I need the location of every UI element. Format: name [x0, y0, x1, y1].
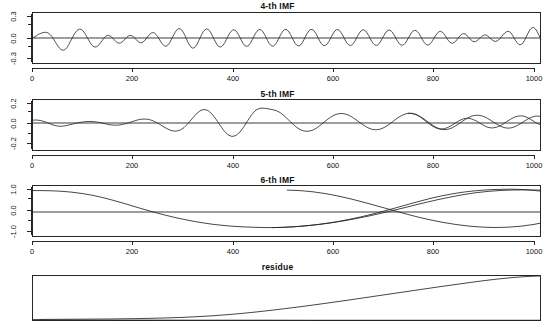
x-tick-label: 1000 — [514, 74, 554, 83]
x-tick-label: 600 — [313, 161, 353, 170]
panel-imf5: 5-th IMF 0.2 0.0 -0.2 0 200 400 600 800 … — [0, 88, 555, 174]
x-tick-label: 800 — [413, 161, 453, 170]
panel-title-residue: residue — [0, 262, 555, 272]
panel-imf6: 6-th IMF 1.0 0.0 -1.0 0 200 400 600 800 — [0, 174, 555, 260]
x-tick-label: 1000 — [514, 161, 554, 170]
x-tick-label: 1000 — [514, 247, 554, 256]
x-tick-label: 800 — [413, 74, 453, 83]
x-tick-label: 600 — [313, 74, 353, 83]
x-tick-label: 0 — [12, 161, 52, 170]
x-tick-label: 200 — [112, 161, 152, 170]
x-tick-label: 0 — [12, 247, 52, 256]
x-tick-label: 200 — [112, 74, 152, 83]
x-tick-label: 200 — [112, 247, 152, 256]
x-tick-label: 400 — [213, 161, 253, 170]
x-tick-label: 400 — [213, 74, 253, 83]
x-axis-imf6: 0 200 400 600 800 1000 — [0, 174, 555, 260]
x-axis-imf4: 0 200 400 600 800 1000 — [0, 0, 555, 88]
x-tick-label: 600 — [313, 247, 353, 256]
panel-imf4: 4-th IMF 0.3 0.0 -0.3 0 200 400 600 800 … — [0, 0, 555, 88]
series-residue — [32, 275, 541, 321]
trend-path-residue — [32, 276, 541, 320]
panel-residue: residue — [0, 260, 555, 334]
x-axis-imf5: 0 200 400 600 800 1000 — [0, 88, 555, 174]
x-tick-label: 0 — [12, 74, 52, 83]
x-tick-label: 800 — [413, 247, 453, 256]
x-tick-label: 400 — [213, 247, 253, 256]
